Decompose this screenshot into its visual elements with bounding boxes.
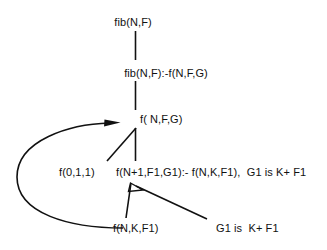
edge-rec-to-sub — [126, 183, 131, 218]
node-subgoal-f-n-k-f1: f(N,K,F1) — [113, 222, 159, 234]
edge-rec-to-arith — [136, 186, 207, 219]
node-base-case-f011: f(0,1,1) — [59, 166, 95, 178]
node-clause-fib-def: fib(N,F):-f(N,F,G) — [124, 67, 208, 79]
node-arithmetic-goal-g1-is: G1 is K+ F1 — [216, 222, 279, 234]
proof-tree-diagram: fib(N,F) fib(N,F):-f(N,F,G) f( N,F,G) f(… — [0, 0, 327, 250]
edge-goal-to-base — [107, 128, 136, 161]
arrowhead-into-goal-icon — [104, 120, 121, 127]
diagram-edges-layer — [0, 0, 327, 250]
node-recursive-clause-f: f(N+1,F1,G1):- f(N,K,F1), G1 is K+ F1 — [116, 166, 306, 178]
node-goal-f: f( N,F,G) — [140, 113, 182, 125]
node-root-fib: fib(N,F) — [114, 16, 151, 28]
